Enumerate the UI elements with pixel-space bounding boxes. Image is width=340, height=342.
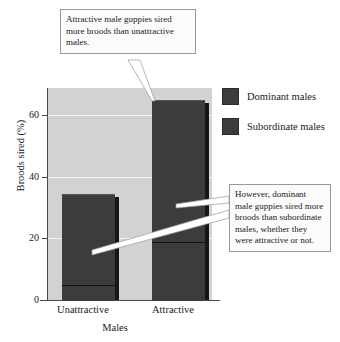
x-tick-label-unattractive: Unattractive bbox=[38, 304, 128, 316]
callout-attractive-vs-unattractive: Attractive male guppies sired more brood… bbox=[60, 9, 196, 54]
legend-item-subordinate-males: Subordinate males bbox=[222, 118, 325, 135]
callout-dominant-vs-subordinate: However, dominant male guppies sired mor… bbox=[229, 184, 331, 252]
x-tick-label-attractive: Attractive bbox=[128, 304, 218, 316]
y-axis-line bbox=[47, 88, 48, 301]
bar-attractive-side bbox=[205, 103, 209, 300]
legend: Dominant males Subordinate males bbox=[222, 88, 325, 148]
bar-attractive-subordinate-line bbox=[152, 242, 205, 243]
legend-item-dominant-males: Dominant males bbox=[222, 88, 325, 105]
chart-figure: 60 40 20 0 Unattractive Attractive Males… bbox=[0, 0, 340, 342]
legend-swatch-dominant-males bbox=[222, 88, 239, 105]
bar-unattractive-side bbox=[115, 197, 119, 300]
y-tick-mark-60 bbox=[42, 115, 47, 116]
x-axis-title: Males bbox=[0, 322, 230, 333]
y-tick-mark-0 bbox=[42, 300, 47, 301]
y-tick-label-20: 20 bbox=[19, 233, 39, 243]
legend-label-subordinate-males: Subordinate males bbox=[247, 121, 325, 132]
y-axis-title: Broods sired (%) bbox=[15, 86, 26, 226]
bar-attractive-dominant bbox=[152, 100, 205, 301]
legend-label-dominant-males: Dominant males bbox=[247, 91, 316, 102]
y-tick-mark-20 bbox=[42, 238, 47, 239]
y-tick-label-0: 0 bbox=[19, 295, 39, 305]
legend-swatch-subordinate-males bbox=[222, 118, 239, 135]
bar-unattractive-subordinate-line bbox=[62, 285, 115, 286]
y-tick-mark-40 bbox=[42, 177, 47, 178]
